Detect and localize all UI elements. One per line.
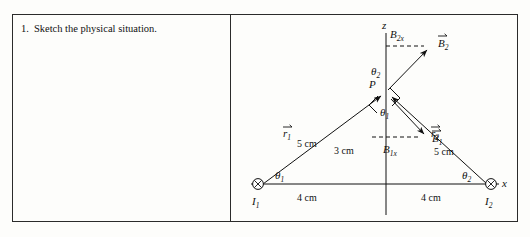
B2-line — [388, 50, 427, 90]
right-base-dimension: 4 cm — [421, 192, 441, 203]
axis-group: z x — [251, 19, 507, 215]
question-number: 1. — [21, 23, 29, 36]
B1-line — [391, 99, 424, 134]
I2-label: I2 — [484, 195, 493, 210]
height-dimension: 3 cm — [334, 145, 354, 156]
theta1-at-P-label: θ1 — [380, 106, 389, 121]
r1-line — [263, 96, 381, 184]
question-table: 1.Sketch the physical situation. z x — [12, 14, 518, 222]
r1-vector: r1 — [263, 96, 381, 184]
B1-vector: B1 — [391, 99, 442, 147]
figure-cell: z x r1 r2 — [231, 15, 517, 221]
r2-length-dimension: 5 cm — [434, 146, 454, 157]
B1x-label: B1x — [383, 143, 397, 158]
theta1-at-I1-label: θ1 — [275, 169, 284, 184]
worksheet-page: 1.Sketch the physical situation. z x — [0, 0, 530, 237]
z-axis-label: z — [381, 19, 387, 31]
question-text: 1.Sketch the physical situation. — [21, 23, 157, 36]
r1-length-dimension: 5 cm — [297, 138, 317, 149]
B1x-component: B1x — [372, 137, 420, 158]
x-axis-label: x — [501, 177, 507, 189]
current-source-right: I2 — [484, 179, 496, 210]
physics-diagram: z x r1 r2 — [231, 15, 517, 221]
r2-vector-arrow-accent — [431, 125, 440, 127]
theta2-at-I2-label: θ2 — [462, 169, 471, 184]
B2-vector: B2 — [388, 37, 449, 90]
I1-label: I1 — [251, 195, 259, 210]
B1-label: B1 — [432, 132, 442, 147]
B2-vector-arrow-accent — [438, 34, 447, 36]
question-cell: 1.Sketch the physical situation. — [13, 15, 231, 221]
question-prompt: Sketch the physical situation. — [34, 23, 157, 34]
r1-label: r1 — [283, 127, 291, 142]
B2x-component: B2x — [386, 28, 424, 46]
B2-label: B2 — [438, 37, 449, 52]
point-P-label: P — [368, 78, 376, 90]
B2x-label: B2x — [390, 28, 404, 43]
current-source-left: I1 — [251, 179, 263, 210]
r1-vector-arrow-accent — [283, 125, 292, 127]
left-base-dimension: 4 cm — [297, 192, 317, 203]
